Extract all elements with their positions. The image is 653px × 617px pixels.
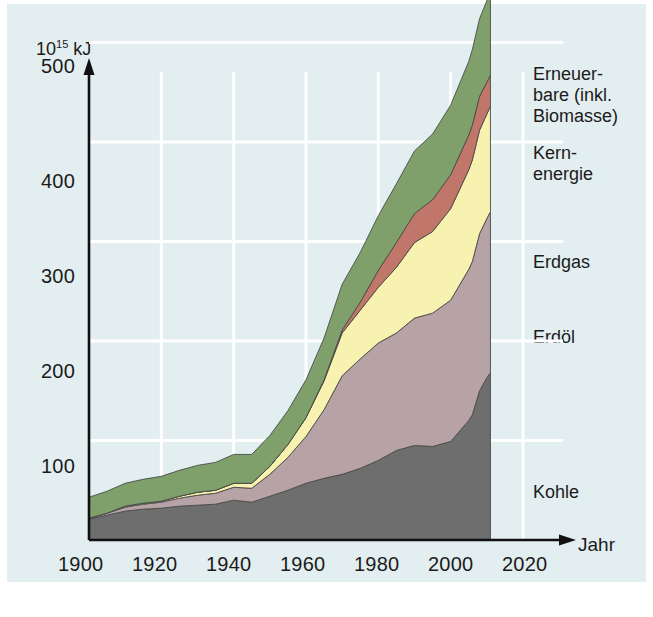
x-axis-arrowhead bbox=[559, 535, 576, 546]
stacked-areas-group bbox=[89, 0, 490, 540]
chart-plot-area bbox=[0, 0, 653, 617]
y-axis-arrowhead bbox=[84, 58, 95, 75]
figure-root: 1015 kJ 500 400 300 200 100 1900 1920 19… bbox=[0, 0, 653, 617]
